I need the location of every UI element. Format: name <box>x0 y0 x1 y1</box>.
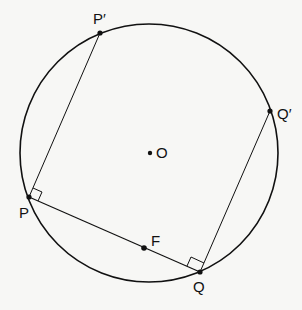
geometry-diagram: P′ P Q Q′ O F <box>0 0 302 310</box>
label-f: F <box>151 232 160 249</box>
point-q <box>197 269 202 274</box>
label-q: Q <box>193 278 205 295</box>
label-o: O <box>156 144 168 161</box>
point-p <box>26 194 31 199</box>
point-p-prime <box>97 30 102 35</box>
point-f <box>141 245 147 251</box>
segment-q-qprime <box>200 111 270 272</box>
label-q-prime: Q′ <box>277 105 292 122</box>
segment-p-pprime <box>29 33 100 197</box>
label-p: P <box>19 204 29 221</box>
label-p-prime: P′ <box>93 10 106 27</box>
right-angle-marker-q <box>187 257 204 266</box>
point-o <box>148 151 152 155</box>
point-q-prime <box>267 108 272 113</box>
segment-p-q <box>29 197 200 272</box>
